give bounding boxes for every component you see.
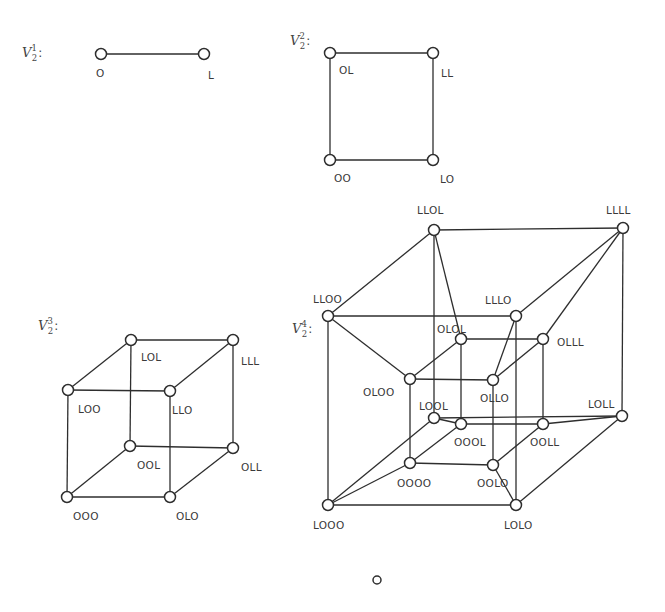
vertex-OLOL: OLOL: [437, 323, 467, 345]
vertex-label: LLL: [241, 355, 259, 367]
vertex-circle-icon: [429, 413, 440, 424]
graph-title: V12:: [22, 43, 42, 63]
vertex-label: LOLO: [504, 519, 533, 531]
vertex-LOOO: LOOO: [313, 500, 344, 532]
edge-OOOO-OOLO: [410, 463, 493, 465]
vertex-OLL: OLL: [228, 443, 262, 474]
vertex-OOO: OOO: [62, 492, 99, 523]
graph-title: V42:: [292, 319, 312, 339]
vertex-circle-icon: [456, 419, 467, 430]
vertex-OO: OO: [325, 155, 352, 185]
vertex-circle-icon: [429, 225, 440, 236]
vertex-label: LO: [440, 173, 454, 185]
vertex-label: LOLL: [588, 398, 615, 410]
vertex-LLOL: LLOL: [417, 204, 444, 236]
vertex-label: LOOL: [419, 400, 448, 412]
vertex-circle-icon: [511, 311, 522, 322]
edge-OLOO-OLLO: [410, 379, 493, 380]
vertex-circle-icon: [165, 492, 176, 503]
edge-LOL-LOO: [68, 340, 131, 390]
vertex-label: LL: [441, 67, 453, 79]
vertex-circle-icon: [538, 334, 549, 345]
vertex-circle-icon: [125, 441, 136, 452]
vertex-circle-icon: [325, 155, 336, 166]
vertex-OLLO: OLLO: [480, 375, 509, 405]
vertex-label: L: [208, 69, 214, 81]
vertex-OLLL: OLLL: [538, 334, 585, 349]
vertex-label: OLLL: [557, 336, 584, 348]
vertex-label: OLOO: [363, 386, 394, 398]
edge-LOO-OOO: [67, 390, 68, 497]
vertex-label: OLO: [176, 510, 199, 522]
vertex-circle-icon: [126, 335, 137, 346]
vertex-label: LLOL: [417, 204, 444, 216]
edge-LLOL-LLLL: [434, 228, 623, 230]
vertex-circle-icon: [618, 223, 629, 234]
vertex-circle-icon: [323, 500, 334, 511]
vertex-L: L: [199, 49, 215, 82]
vertex-circle-icon: [488, 375, 499, 386]
vertex-circle-icon: [228, 443, 239, 454]
edge-LLOL-LLOO: [328, 230, 434, 316]
edge-LOOL-LOOO: [328, 418, 434, 505]
vertex-label: OOOO: [397, 477, 431, 489]
vertex-circle-icon: [63, 385, 74, 396]
vertex-circle-icon: [538, 419, 549, 430]
vertex-LLOO: LLOO: [313, 293, 342, 322]
edges: [67, 340, 233, 497]
vertex-label: OOLL: [530, 436, 559, 448]
vertex-label: OO: [334, 172, 351, 184]
vertex-OOL: OOL: [125, 441, 161, 472]
edges: [328, 228, 623, 505]
vertex-circle-icon: [617, 411, 628, 422]
hypercube-diagram: V12:OLV22:OLLLOOLOV32:LOLLLLLOOLLOOOLOLL…: [0, 0, 665, 612]
vertex-label: OOO: [73, 510, 99, 522]
vertex-label: LLLL: [606, 204, 631, 216]
vertex-label: O: [96, 67, 105, 79]
vertex-label: OOL: [137, 459, 160, 471]
vertex-circle-icon: [96, 49, 107, 60]
vertex-OOLO: OOLO: [477, 460, 508, 490]
vertex-label: LLLO: [485, 294, 512, 306]
edge-LLL-LLO: [170, 340, 233, 391]
vertex-circle-icon: [228, 335, 239, 346]
vertex-O: O: [96, 49, 107, 80]
vertex-OLOO: OLOO: [363, 374, 416, 399]
vertex-circle-icon: [488, 460, 499, 471]
vertex-label: LOOO: [313, 519, 344, 531]
edge-LLOO-OLOO: [328, 316, 410, 379]
vertex-circle-icon: [456, 334, 467, 345]
graphs-layer: V12:OLV22:OLLLOOLOV32:LOLLLLLOOLLOOOLOLL…: [22, 31, 631, 531]
edge-OLOL-OLOO: [410, 339, 461, 379]
graph-title: V32:: [38, 316, 58, 336]
vertex-circle-icon: [428, 155, 439, 166]
graph-v22: V22:OLLLOOLO: [290, 31, 454, 185]
vertex-circle-icon: [323, 311, 334, 322]
vertex-OL: OL: [325, 48, 354, 77]
vertex-LOLO: LOLO: [504, 500, 533, 532]
graph-v21: V12:OL: [22, 43, 214, 81]
vertex-LLO: LLO: [165, 386, 193, 417]
edge-LOO-LLO: [68, 390, 170, 391]
vertex-circle-icon: [199, 49, 210, 60]
vertex-LLLL: LLLL: [606, 204, 631, 234]
vertex-circle-icon: [62, 492, 73, 503]
edge-OOL-OOO: [67, 446, 130, 497]
vertex-label: OLOL: [437, 323, 466, 335]
vertex-label: OLLO: [480, 392, 509, 404]
vertex-circle-icon: [511, 500, 522, 511]
edge-OLL-OLO: [170, 448, 233, 497]
vertex-label: LOO: [78, 403, 101, 415]
vertex-label: LLOO: [313, 293, 342, 305]
vertex-circle-icon: [405, 374, 416, 385]
vertex-label: OL: [339, 64, 354, 76]
vertex-LO: LO: [428, 155, 455, 186]
vertex-circle-icon: [325, 48, 336, 59]
vertex-label: OOOL: [454, 436, 486, 448]
edge-LLLL-LOLL: [622, 228, 623, 416]
graph-v24: V42:LLOLLLLLLLOOLLLOOLOLOLLLOLOOOLLOLOOL…: [292, 204, 631, 531]
vertex-OOOO: OOOO: [397, 458, 431, 490]
vertex-LL: LL: [428, 48, 454, 80]
vertex-OOOL: OOOL: [454, 419, 486, 449]
vertex-circle-icon: [428, 48, 439, 59]
